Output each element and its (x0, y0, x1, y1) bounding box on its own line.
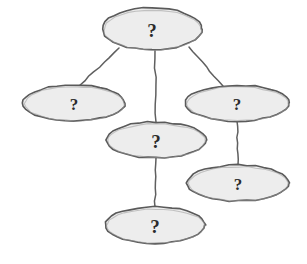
root-node-label: ? (147, 20, 157, 41)
edge-root-to-middle (154, 50, 156, 122)
node-link-diagram: ?????? (0, 0, 307, 264)
left-node-label: ? (70, 95, 79, 114)
left-node[interactable]: ? (22, 85, 125, 121)
bottom-node-label: ? (150, 216, 160, 237)
lower-right-node[interactable]: ? (186, 164, 289, 201)
diagram-canvas: ?????? (0, 0, 307, 264)
lower-right-node-label: ? (234, 175, 243, 194)
edge-root-to-right (189, 47, 223, 86)
right-node-label: ? (233, 95, 242, 114)
middle-node[interactable]: ? (106, 122, 207, 158)
edge-middle-to-bottom (154, 158, 156, 207)
nodes-layer: ?????? (22, 8, 289, 244)
bottom-node[interactable]: ? (105, 206, 205, 244)
edge-root-to-left (79, 48, 119, 86)
middle-node-label: ? (151, 131, 161, 152)
right-node[interactable]: ? (186, 86, 290, 122)
edge-right-to-lower-right (237, 121, 238, 165)
root-node[interactable]: ? (103, 8, 202, 51)
